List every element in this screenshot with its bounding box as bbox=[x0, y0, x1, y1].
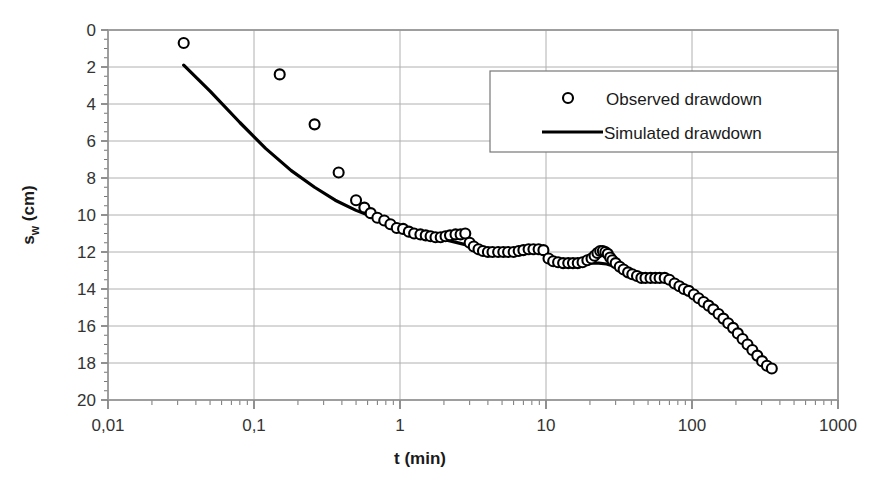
observed-data-point bbox=[310, 119, 320, 129]
chart-legend[interactable]: Observed drawdown Simulated drawdown bbox=[490, 71, 838, 152]
y-tick-label: 8 bbox=[87, 169, 96, 188]
legend-label-observed: Observed drawdown bbox=[606, 90, 762, 109]
x-tick-label: 1000 bbox=[819, 416, 857, 435]
chart-figure: 02468101214161820 0,010,11101001000 Obse… bbox=[0, 0, 887, 485]
y-tick-label: 2 bbox=[87, 58, 96, 77]
x-tick-label: 0,1 bbox=[242, 416, 266, 435]
y-tick-label: 16 bbox=[77, 317, 96, 336]
y-tick-label: 4 bbox=[87, 95, 96, 114]
y-tick-label: 20 bbox=[77, 391, 96, 410]
y-axis-title-unit: (cm) bbox=[19, 185, 38, 226]
legend-observed-marker-icon bbox=[563, 93, 573, 103]
x-tick-label: 1 bbox=[395, 416, 404, 435]
y-axis-title-subscript: w bbox=[28, 225, 42, 236]
drawdown-chart: 02468101214161820 0,010,11101001000 Obse… bbox=[0, 0, 887, 485]
observed-data-point bbox=[179, 38, 189, 48]
y-tick-label: 6 bbox=[87, 132, 96, 151]
legend-label-simulated: Simulated drawdown bbox=[604, 124, 762, 143]
x-axis-title-group: t (min) bbox=[394, 449, 446, 468]
x-tick-label: 10 bbox=[537, 416, 556, 435]
observed-data-point bbox=[351, 195, 361, 205]
x-tick-label: 0,01 bbox=[91, 416, 124, 435]
y-tick-label: 18 bbox=[77, 354, 96, 373]
x-tick-label: 100 bbox=[678, 416, 706, 435]
y-tick-label: 10 bbox=[77, 206, 96, 225]
observed-data-point bbox=[275, 69, 285, 79]
x-axis-title: t (min) bbox=[394, 449, 446, 468]
observed-data-point bbox=[334, 167, 344, 177]
y-axis-title-base: s bbox=[19, 235, 38, 244]
y-tick-label: 12 bbox=[77, 243, 96, 262]
y-tick-label: 14 bbox=[77, 280, 96, 299]
y-tick-label: 0 bbox=[87, 21, 96, 40]
observed-data-point bbox=[767, 364, 777, 374]
